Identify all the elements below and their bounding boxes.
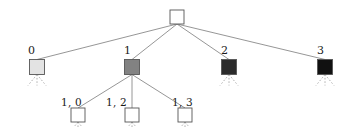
dashed-edge-13-0 — [176, 122, 185, 127]
tree-node-1[interactable] — [125, 60, 140, 75]
dashed-edge-3-0 — [316, 75, 325, 86]
dashed-edge-0-0 — [28, 75, 37, 86]
tree-leaf-label-1--2: 1, 2 — [106, 97, 127, 108]
tree-diagram-figure: 01231, 01, 21, 3 — [0, 0, 358, 127]
tree-node-2[interactable] — [222, 60, 237, 75]
tree-node-0[interactable] — [30, 60, 45, 75]
tree-leaf-label-1--3: 1, 3 — [172, 97, 193, 108]
tree-node-label-1: 1 — [124, 45, 131, 56]
dashed-edge-10-0 — [69, 122, 78, 127]
dashed-edge-10-2 — [78, 122, 87, 127]
dashed-edge-2-0 — [220, 75, 229, 86]
dashed-edge-2-2 — [229, 75, 238, 86]
dashed-edge-0-2 — [37, 75, 46, 86]
tree-node-label-2: 2 — [221, 45, 228, 56]
dashed-edge-3-2 — [325, 75, 334, 86]
tree-node-label-0: 0 — [28, 45, 35, 56]
tree-node-label-3: 3 — [317, 45, 324, 56]
dashed-edge-12-2 — [132, 122, 141, 127]
tree-leaf-label-1--0: 1, 0 — [61, 97, 82, 108]
edge-root-to-0 — [37, 24, 177, 60]
dashed-edge-12-0 — [123, 122, 132, 127]
tree-node-1--2[interactable] — [125, 108, 139, 122]
tree-node-3[interactable] — [318, 60, 333, 75]
edge-root-to-3 — [177, 24, 325, 60]
tree-node-1--0[interactable] — [71, 108, 85, 122]
tree-node-1--3[interactable] — [178, 108, 192, 122]
tree-node-root[interactable] — [170, 10, 184, 24]
dashed-edge-13-2 — [185, 122, 194, 127]
